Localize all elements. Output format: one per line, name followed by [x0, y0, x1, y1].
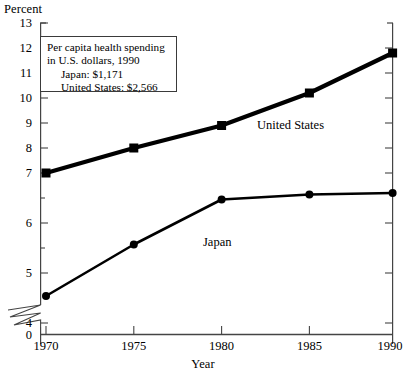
- right-axis: [385, 23, 393, 344]
- x-tick-label-1985: 1985: [286, 340, 332, 353]
- us-marker-1975: [129, 144, 138, 153]
- annotation-box: Per capita health spending in U.S. dolla…: [40, 36, 177, 92]
- y-tick-label-9: 9: [6, 117, 32, 130]
- japan-marker-1990: [389, 189, 397, 197]
- y-tick-label-10: 10: [6, 92, 32, 105]
- japan-marker-1985: [305, 191, 313, 199]
- series-label-united-states: United States: [257, 119, 324, 132]
- japan-marker-1970: [42, 292, 50, 300]
- x-tick-label-1970: 1970: [23, 340, 69, 353]
- x-tick-label-1980: 1980: [199, 340, 245, 353]
- japan-marker-1980: [218, 196, 226, 204]
- us-marker-1985: [305, 89, 314, 98]
- y-tick-label-12: 12: [6, 42, 32, 55]
- x-axis-title: Year: [0, 358, 406, 371]
- x-axis: [41, 326, 393, 335]
- japan-marker-1975: [130, 241, 138, 249]
- y-axis-title: Percent: [4, 3, 42, 16]
- x-tick-label-1990: 1990: [367, 340, 406, 353]
- annotation-line-2: in U.S. dollars, 1990: [47, 54, 171, 67]
- y-tick-label-11: 11: [6, 67, 32, 80]
- annotation-line-1: Per capita health spending: [47, 41, 171, 54]
- us-marker-1970: [42, 169, 51, 178]
- y-tick-label-6: 6: [6, 217, 32, 230]
- y-tick-label-13: 13: [6, 17, 32, 30]
- y-tick-label-5: 5: [6, 267, 32, 280]
- us-marker-1990: [388, 49, 397, 58]
- us-marker-1980: [217, 121, 226, 130]
- annotation-line-4: United States: $2,566: [47, 81, 171, 94]
- annotation-line-3: Japan: $1,171: [47, 68, 171, 81]
- x-tick-label-1975: 1975: [111, 340, 157, 353]
- line-chart: Percent Year 13 12 11 10 9 8 7 6 5 4 0 1…: [0, 0, 406, 376]
- y-tick-label-7: 7: [6, 167, 32, 180]
- y-tick-label-8: 8: [6, 142, 32, 155]
- series-label-japan: Japan: [203, 236, 231, 249]
